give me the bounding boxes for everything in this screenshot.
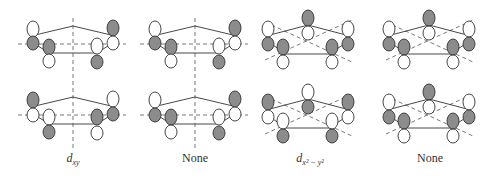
diagram-1 xyxy=(18,18,126,150)
diagram-4 xyxy=(383,10,475,143)
diagram-4-top xyxy=(383,10,475,69)
diagram-1-top xyxy=(18,20,126,69)
diagram-2-top xyxy=(140,20,248,69)
label-d-x2-y2-sub: x² − y² xyxy=(302,158,323,167)
label-d-xy-sub: xy xyxy=(72,158,79,167)
label-none-1: None xyxy=(155,151,235,166)
diagram-3-top xyxy=(262,10,354,69)
label-none-1-text: None xyxy=(182,151,208,165)
diagram-3 xyxy=(262,10,354,143)
label-none-2: None xyxy=(390,151,470,166)
label-none-2-text: None xyxy=(417,151,443,165)
label-d-x2-y2: dx² − y² xyxy=(270,151,350,167)
diagram-1-bottom xyxy=(18,91,126,140)
diagram-2 xyxy=(140,18,248,150)
diagram-3-bottom xyxy=(262,84,354,143)
diagram-2-bottom xyxy=(140,91,248,140)
diagram-4-bottom xyxy=(383,84,475,143)
label-d-xy: dxy xyxy=(33,151,113,167)
